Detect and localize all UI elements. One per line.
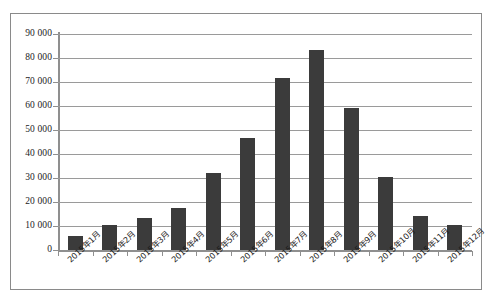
y-axis-tick-mark — [53, 58, 58, 59]
x-axis-tick-mark — [369, 251, 370, 256]
y-axis-tick-mark — [53, 202, 58, 203]
y-axis-tick-label: 20 000 — [25, 197, 52, 207]
bar — [378, 177, 393, 250]
x-axis-tick-mark — [334, 251, 335, 256]
bar — [275, 78, 290, 250]
x-axis-tick-mark — [438, 251, 439, 256]
gridline — [58, 154, 472, 155]
bar — [240, 138, 255, 250]
gridline — [58, 82, 472, 83]
x-axis-tick-mark — [231, 251, 232, 256]
gridline — [58, 58, 472, 59]
bar — [309, 50, 324, 250]
x-axis-tick-mark — [265, 251, 266, 256]
plot-area — [58, 34, 472, 250]
gridline — [58, 130, 472, 131]
x-axis-tick-mark — [196, 251, 197, 256]
gridline — [58, 202, 472, 203]
bar — [344, 108, 359, 250]
x-axis-tick-mark — [93, 251, 94, 256]
gridline — [58, 34, 472, 35]
x-axis-tick-mark — [162, 251, 163, 256]
x-axis-tick-mark — [300, 251, 301, 256]
y-axis-tick-mark — [53, 178, 58, 179]
y-axis-tick-label: 40 000 — [25, 149, 52, 159]
y-axis-tick-label: 60 000 — [25, 101, 52, 111]
y-axis-tick-mark — [53, 106, 58, 107]
x-axis-tick-mark — [472, 251, 473, 256]
y-axis-label-group: 010 00020 00030 00040 00050 00060 00070 … — [8, 0, 52, 307]
y-axis-tick-label: 10 000 — [25, 221, 52, 231]
x-axis-tick-mark — [58, 251, 59, 256]
y-axis-tick-label: 50 000 — [25, 125, 52, 135]
y-axis-tick-label: 90 000 — [25, 29, 52, 39]
x-axis-tick-mark — [127, 251, 128, 256]
y-axis-tick-label: 70 000 — [25, 77, 52, 87]
y-axis-tick-mark — [53, 34, 58, 35]
bar — [206, 173, 221, 250]
y-axis-tick-mark — [53, 130, 58, 131]
bar-chart-figure: 010 00020 00030 00040 00050 00060 00070 … — [0, 0, 492, 307]
gridline — [58, 178, 472, 179]
y-axis-tick-label: 30 000 — [25, 173, 52, 183]
y-axis-tick-mark — [53, 226, 58, 227]
y-axis-tick-label: 80 000 — [25, 53, 52, 63]
y-axis-tick-mark — [53, 154, 58, 155]
gridline — [58, 106, 472, 107]
x-axis-tick-mark — [403, 251, 404, 256]
y-axis-tick-label: 0 — [47, 245, 52, 255]
y-axis-tick-mark — [53, 82, 58, 83]
